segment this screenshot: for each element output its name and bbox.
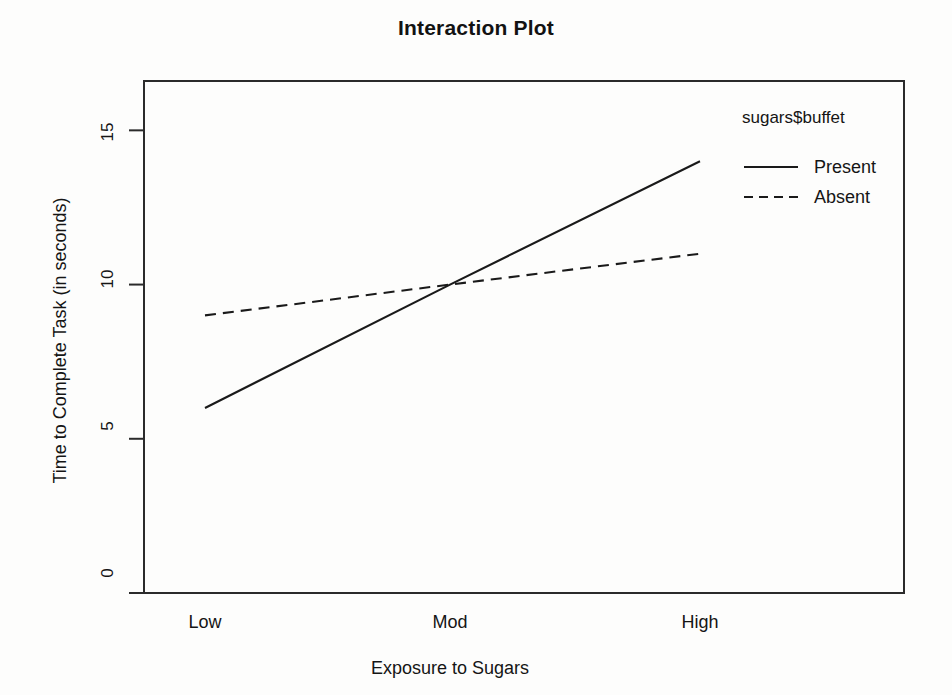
x-tick-label-high: High (640, 612, 760, 633)
x-tick-label-low: Low (145, 612, 265, 633)
series-line-present (205, 161, 700, 408)
legend-item-present: Present (742, 152, 932, 182)
y-axis-label: Time to Complete Task (in seconds) (50, 161, 71, 521)
legend-key-solid-line-icon (742, 160, 800, 174)
y-tick-label-10: 10 (98, 259, 118, 299)
x-axis-label: Exposure to Sugars (330, 658, 570, 679)
series-line-absent (205, 254, 700, 316)
y-tick-label-0: 0 (98, 553, 118, 593)
legend: sugars$buffet Present Absent (742, 108, 932, 212)
interaction-plot-figure: Interaction Plot 0 5 10 15 Low Mod High … (0, 0, 952, 695)
y-tick-label-15: 15 (98, 112, 118, 152)
y-axis-tick-marks (129, 130, 144, 593)
legend-key-dashed-line-icon (742, 190, 800, 204)
y-tick-label-5: 5 (98, 406, 118, 446)
legend-title: sugars$buffet (742, 108, 932, 128)
legend-label-absent: Absent (814, 187, 870, 208)
plot-canvas (0, 0, 952, 695)
x-tick-label-mod: Mod (390, 612, 510, 633)
legend-item-absent: Absent (742, 182, 932, 212)
legend-label-present: Present (814, 157, 876, 178)
